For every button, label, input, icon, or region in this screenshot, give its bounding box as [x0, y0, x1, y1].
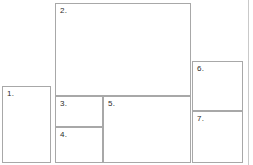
region-5-label: 5.	[108, 99, 115, 108]
region-5[interactable]: 5.	[103, 96, 191, 163]
region-4-label: 4.	[60, 130, 67, 139]
page-edge-rule	[248, 0, 249, 165]
region-6-label: 6.	[197, 64, 204, 73]
region-2-label: 2.	[60, 6, 67, 15]
region-3[interactable]: 3.	[55, 96, 103, 127]
region-7-label: 7.	[197, 114, 204, 123]
region-1[interactable]: 1.	[2, 86, 51, 163]
region-7[interactable]: 7.	[192, 111, 243, 163]
region-3-label: 3.	[60, 99, 67, 108]
region-2[interactable]: 2.	[55, 3, 191, 96]
region-6[interactable]: 6.	[192, 61, 243, 111]
region-4[interactable]: 4.	[55, 127, 103, 163]
region-1-label: 1.	[7, 89, 14, 98]
diagram-canvas: 1. 2. 3. 4. 5. 6. 7.	[0, 0, 253, 165]
